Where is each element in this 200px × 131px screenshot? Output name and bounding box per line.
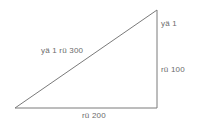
vertical-top-label: yä 1 bbox=[161, 19, 177, 29]
triangle-hypotenuse-line bbox=[15, 10, 157, 108]
vertical-bottom-label: rü 100 bbox=[161, 65, 185, 75]
triangle-diagram: yä 1 rü 300 yä 1 rü 100 rü 200 bbox=[0, 0, 200, 131]
hypotenuse-label: yä 1 rü 300 bbox=[41, 46, 83, 56]
base-label: rü 200 bbox=[82, 111, 106, 121]
